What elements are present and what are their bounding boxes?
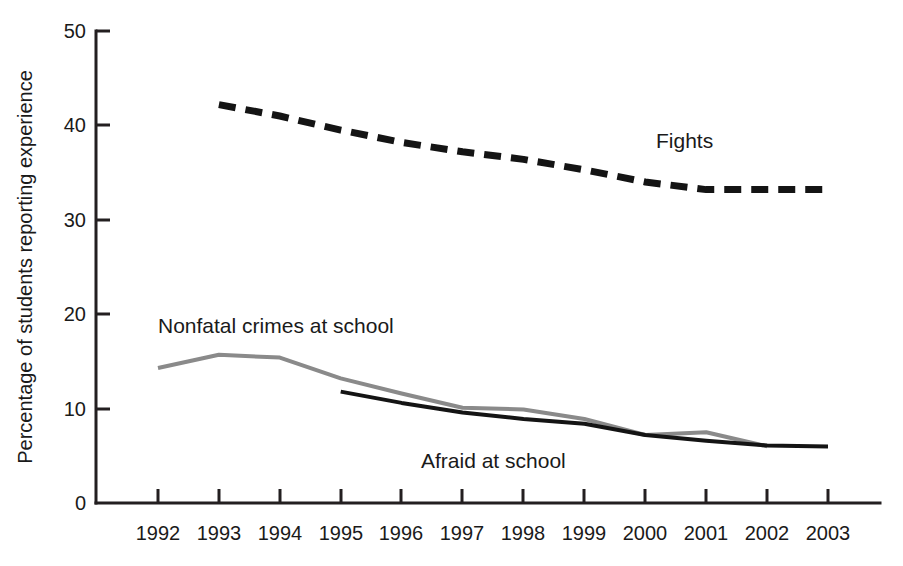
y-tick-marks [96, 31, 110, 409]
y-tick-label-0: 0 [75, 492, 86, 514]
line-chart: Percentage of students reporting experie… [0, 0, 903, 566]
series-label-nonfatal: Nonfatal crimes at school [158, 314, 394, 337]
x-tick-label-1995: 1995 [319, 522, 364, 544]
x-tick-label-1993: 1993 [197, 522, 242, 544]
x-tick-label-1998: 1998 [501, 522, 546, 544]
y-tick-label-20: 20 [64, 303, 86, 325]
x-tick-label-2003: 2003 [806, 522, 851, 544]
x-tick-marks [158, 489, 828, 503]
y-tick-label-10: 10 [64, 398, 86, 420]
x-tick-label-2001: 2001 [684, 522, 729, 544]
x-tick-label-2002: 2002 [745, 522, 790, 544]
series-label-fights: Fights [656, 129, 713, 152]
series-line-nonfatal-crimes-at-school [158, 355, 767, 447]
series-label-afraid: Afraid at school [421, 449, 566, 472]
x-tick-labels: 1992 1993 1994 1995 1996 1997 1998 1999 … [136, 522, 851, 544]
chart-container: Percentage of students reporting experie… [0, 0, 903, 566]
x-tick-label-2000: 2000 [623, 522, 668, 544]
y-tick-label-50: 50 [64, 20, 86, 42]
y-axis-title: Percentage of students reporting experie… [14, 70, 36, 464]
x-tick-label-1994: 1994 [258, 522, 303, 544]
x-tick-label-1996: 1996 [379, 522, 424, 544]
x-tick-label-1992: 1992 [136, 522, 181, 544]
series-line-fights [219, 105, 828, 190]
x-tick-label-1997: 1997 [440, 522, 485, 544]
y-tick-label-30: 30 [64, 209, 86, 231]
x-tick-label-1999: 1999 [562, 522, 607, 544]
y-tick-label-40: 40 [64, 114, 86, 136]
series-layer [158, 105, 828, 447]
